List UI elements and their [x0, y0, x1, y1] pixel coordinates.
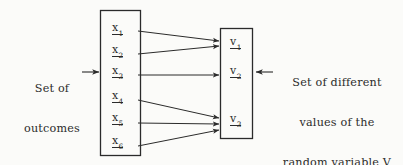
domain-item-symbol: x1 [112, 21, 123, 35]
right-caption-line-3: random variable V [272, 156, 402, 165]
domain-item-x4: x4 [112, 90, 123, 103]
range-item-subscript: 3 [237, 120, 242, 129]
figure-canvas: x1x2x3x4x5x6 v1v2v3 Set of outcomes Set … [0, 0, 403, 165]
right-caption-line-3-prefix: random variable [283, 156, 383, 165]
domain-item-subscript: 6 [119, 142, 124, 151]
range-item-subscript: 2 [237, 72, 242, 81]
range-item-subscript: 1 [237, 43, 242, 52]
mapping-line-x4-to-v3 [138, 100, 219, 118]
domain-item-symbol: x4 [112, 89, 123, 103]
domain-item-x1: x1 [112, 22, 123, 35]
range-item-symbol: v3 [230, 112, 241, 126]
right-caption-line-1: Set of different [272, 76, 402, 89]
domain-item-subscript: 5 [119, 119, 124, 128]
mapping-line-x6-to-v3 [138, 130, 219, 146]
mapping-lines [138, 31, 219, 146]
domain-item-x5: x5 [112, 112, 123, 125]
mapping-line-x1-to-v1 [138, 31, 219, 41]
range-item-v3: v3 [230, 113, 241, 126]
left-caption-line-1: Set of [6, 82, 98, 95]
domain-item-symbol: x5 [112, 111, 123, 125]
domain-item-subscript: 4 [119, 97, 124, 106]
left-caption-line-2: outcomes [6, 122, 98, 135]
range-item-v2: v2 [230, 65, 241, 78]
domain-item-x6: x6 [112, 135, 123, 148]
mapping-line-x2-to-v1 [138, 46, 219, 54]
domain-item-subscript: 3 [119, 72, 124, 81]
mapping-line-x5-to-v3 [138, 123, 219, 124]
domain-item-symbol: x2 [112, 43, 123, 57]
right-caption-line-2: values of the [272, 116, 402, 129]
domain-item-subscript: 2 [119, 51, 124, 60]
range-item-symbol: v1 [230, 35, 241, 49]
range-item-symbol: v2 [230, 64, 241, 78]
domain-item-x2: x2 [112, 44, 123, 57]
domain-item-x3: x3 [112, 65, 123, 78]
domain-item-symbol: x3 [112, 64, 123, 78]
right-caption: Set of different values of the random va… [272, 50, 402, 165]
range-item-v1: v1 [230, 36, 241, 49]
domain-item-symbol: x6 [112, 134, 123, 148]
random-variable-symbol: V [383, 156, 391, 165]
left-caption: Set of outcomes [6, 56, 98, 162]
domain-item-subscript: 1 [119, 29, 124, 38]
